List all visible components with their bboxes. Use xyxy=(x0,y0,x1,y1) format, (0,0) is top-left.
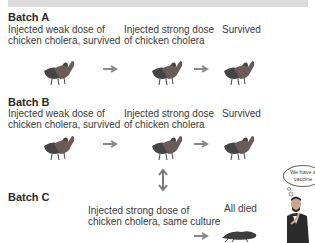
batch-a-step2-line2: of chicken cholera xyxy=(124,35,205,46)
scientist-icon xyxy=(283,186,315,243)
top-bar xyxy=(8,0,308,7)
batch-a-title: Batch A xyxy=(8,11,49,23)
chicken-icon xyxy=(40,57,76,87)
dead-chickens-icon xyxy=(220,226,260,243)
batch-a-result: Survived xyxy=(222,24,261,35)
batch-b-title: Batch B xyxy=(8,96,50,108)
arrow-right-icon xyxy=(194,65,210,73)
batch-a-step1-line1: Injected weak dose of xyxy=(8,24,105,35)
batch-b-step2-line1: Injected strong dose xyxy=(124,108,214,119)
chicken-icon xyxy=(220,132,256,162)
chicken-icon xyxy=(220,57,256,87)
chicken-icon xyxy=(148,57,184,87)
double-arrow-vertical-icon xyxy=(158,168,168,192)
batch-b-result: Survived xyxy=(222,108,261,119)
batch-b-step2-line2: of chicken cholera xyxy=(124,119,205,130)
batch-c-step-line2: chicken cholera, same culture xyxy=(88,216,220,227)
batch-c-title: Batch C xyxy=(8,191,50,203)
thought-bubble: We have a vaccine xyxy=(283,165,315,187)
arrow-right-icon xyxy=(103,140,119,148)
chicken-icon xyxy=(40,132,76,162)
chicken-icon xyxy=(148,132,184,162)
arrow-right-icon xyxy=(194,140,210,148)
batch-b-step1-line1: Injected weak dose of xyxy=(8,108,105,119)
batch-b-step1-line2: chicken cholera, survived xyxy=(8,119,120,130)
batch-a-step2-line1: Injected strong dose xyxy=(124,24,214,35)
batch-c-result: All died xyxy=(224,203,257,214)
arrow-right-icon xyxy=(103,65,119,73)
batch-a-step1-line2: chicken cholera, survived xyxy=(8,35,120,46)
batch-c-step-line1: Injected strong dose of xyxy=(88,205,189,216)
arrow-right-icon xyxy=(194,232,210,240)
